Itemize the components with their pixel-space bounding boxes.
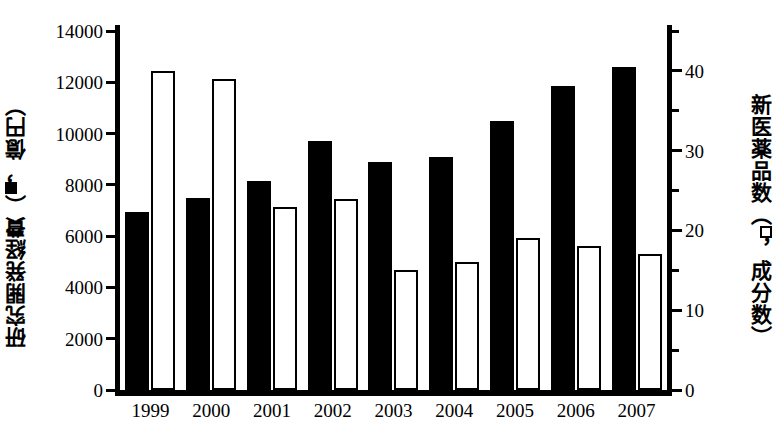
plot-area: 02000400060008000100001200014000 0102030… (120, 31, 667, 390)
bar-group (302, 31, 363, 390)
bar-new-drug-count (151, 71, 175, 390)
y-axis-left-tick-label: 6000 (65, 227, 103, 246)
y-axis-left-title-prefix: 研究開発経費（ (5, 194, 29, 348)
x-axis-tick-label: 2001 (253, 400, 291, 422)
y-axis-right-title-prefix: 新医薬品数（ (748, 94, 772, 226)
y-axis-left-tick (106, 286, 115, 289)
bar-group (363, 31, 424, 390)
bar-new-drug-count (516, 238, 540, 390)
y-axis-left-tick (106, 183, 115, 186)
x-axis-tick-label: 2005 (496, 400, 534, 422)
y-axis-right-tick-label: 20 (685, 221, 704, 240)
y-axis-right-tick-minor (672, 109, 679, 112)
y-axis-left-tick (106, 389, 115, 392)
axis-spine-right (667, 25, 672, 390)
bar-new-drug-count (334, 199, 358, 390)
bar-research-expense (308, 141, 332, 390)
bar-new-drug-count (455, 262, 479, 390)
x-axis-tick-label: 2004 (435, 400, 473, 422)
bar-group (181, 31, 242, 390)
bar-research-expense (125, 212, 149, 390)
bar-group (606, 31, 667, 390)
y-axis-left-title-suffix: ，億円） (5, 94, 29, 182)
x-axis-tick-label: 2002 (314, 400, 352, 422)
bar-new-drug-count (212, 79, 236, 390)
y-axis-left-tick-label: 8000 (65, 175, 103, 194)
bar-group (545, 31, 606, 390)
y-axis-right-tick-label: 0 (685, 381, 695, 400)
bar-group (424, 31, 485, 390)
y-axis-left-tick-label: 2000 (65, 329, 103, 348)
y-axis-right-title: 新医薬品数（，成分数） (745, 94, 775, 348)
bar-group (485, 31, 546, 390)
y-axis-left-tick-label: 0 (94, 381, 104, 400)
y-axis-right-tick-minor (672, 269, 679, 272)
y-axis-left-tick (106, 30, 115, 33)
bar-research-expense (368, 162, 392, 390)
y-axis-right-tick (672, 389, 682, 392)
y-axis-right-tick-label: 10 (685, 301, 704, 320)
y-axis-left-tick-label: 14000 (56, 22, 104, 41)
y-axis-left-tick-label: 4000 (65, 278, 103, 297)
axis-spine-bottom (115, 390, 672, 396)
bar-new-drug-count (273, 207, 297, 390)
y-axis-right-tick (672, 149, 682, 152)
y-axis-left-tick-label: 12000 (56, 73, 104, 92)
bar-research-expense (490, 121, 514, 390)
chart-figure: 研究開発経費（，億円） 新医薬品数（，成分数） 0200040006000800… (0, 0, 777, 442)
bar-new-drug-count (638, 254, 662, 390)
y-axis-right-tick (672, 229, 682, 232)
x-axis-tick-label: 2003 (375, 400, 413, 422)
y-axis-left-tick (106, 132, 115, 135)
y-axis-right-tick (672, 69, 682, 72)
y-axis-right-tick-label: 30 (685, 141, 704, 160)
bar-research-expense (247, 181, 271, 390)
x-axis-tick-label: 2007 (618, 400, 656, 422)
y-axis-right-tick-minor (672, 349, 679, 352)
y-axis-right-title-suffix: ，成分数） (748, 238, 772, 348)
y-axis-left-tick-label: 10000 (56, 124, 104, 143)
bar-research-expense (551, 86, 575, 390)
y-axis-left-title: 研究開発経費（，億円） (2, 94, 32, 348)
y-axis-right-tick-minor (672, 189, 679, 192)
bar-research-expense (186, 198, 210, 390)
bar-research-expense (612, 67, 636, 390)
bar-research-expense (429, 157, 453, 390)
filled-square-icon (5, 182, 17, 194)
y-axis-right-tick-label: 40 (685, 61, 704, 80)
x-axis-tick-label: 2000 (192, 400, 230, 422)
open-square-icon (760, 226, 772, 238)
y-axis-right-tick-minor (672, 30, 679, 33)
y-axis-right-tick (672, 309, 682, 312)
bar-new-drug-count (577, 246, 601, 390)
y-axis-left-tick (106, 235, 115, 238)
x-axis-tick-label: 1999 (131, 400, 169, 422)
bar-group (120, 31, 181, 390)
y-axis-left-tick (106, 81, 115, 84)
x-axis-tick-label: 2006 (557, 400, 595, 422)
bar-group (242, 31, 303, 390)
bar-new-drug-count (394, 270, 418, 390)
y-axis-left-tick (106, 337, 115, 340)
